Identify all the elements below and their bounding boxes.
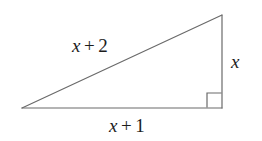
right-angle-marker — [207, 93, 222, 108]
hypotenuse-label-operator: + — [84, 35, 95, 56]
hypotenuse-label: x+2 — [72, 36, 108, 55]
hypotenuse-label-constant: 2 — [98, 35, 108, 56]
vertical-label-variable: x — [231, 51, 240, 72]
triangle-figure: x+2 x+1 x — [0, 0, 262, 141]
base-label-operator: + — [121, 115, 132, 136]
base-label-variable: x — [109, 115, 118, 136]
hypotenuse-side — [22, 15, 222, 108]
base-label: x+1 — [109, 116, 145, 135]
base-label-constant: 1 — [135, 115, 145, 136]
vertical-label: x — [231, 52, 240, 71]
hypotenuse-label-variable: x — [72, 35, 81, 56]
